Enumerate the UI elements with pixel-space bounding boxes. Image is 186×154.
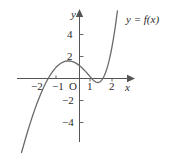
x-tick-label-2: 2 — [109, 81, 115, 92]
y-tick-label-2: 2 — [67, 51, 73, 62]
x-tick-label-minus1: −1 — [52, 81, 64, 92]
origin-label: O — [69, 81, 77, 92]
x-axis-label: x — [125, 82, 130, 93]
x-tick-label-1: 1 — [87, 81, 93, 92]
y-tick-label-minus4: −4 — [62, 117, 74, 128]
y-axis — [76, 9, 84, 142]
y-tick-label-4: 4 — [67, 29, 73, 40]
y-axis-label: y — [71, 9, 76, 20]
curve-equation-label: y = f(x) — [126, 14, 159, 25]
y-tick-label-minus2: −2 — [62, 95, 74, 106]
x-tick-label-minus2: −2 — [31, 81, 43, 92]
graph-figure: 4 2 −2 −4 −2 −1 1 2 O y x y = f(x) — [0, 0, 186, 154]
y-axis-arrow — [76, 9, 83, 17]
